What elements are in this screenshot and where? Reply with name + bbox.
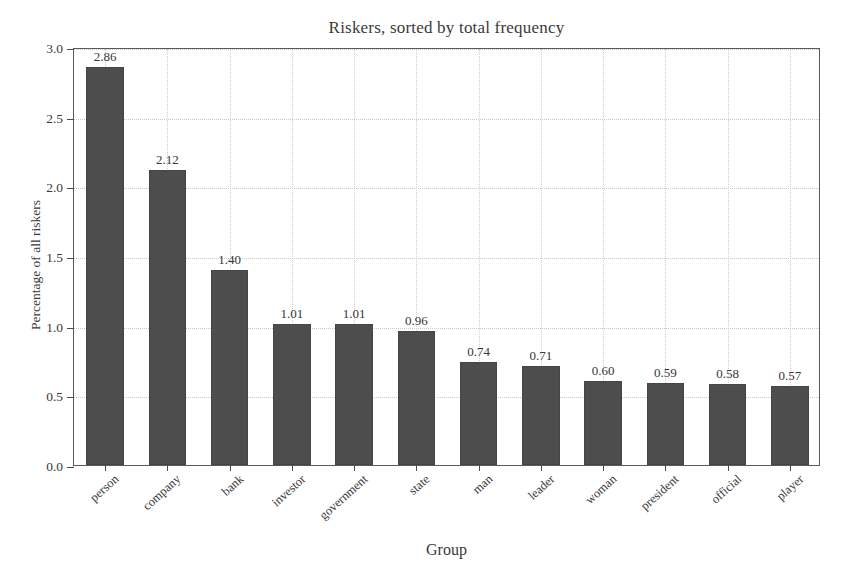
y-tick-mark	[67, 119, 74, 120]
y-tick-mark	[67, 397, 74, 398]
bar-value-label: 0.60	[592, 363, 615, 379]
plot-inner: 2.862.121.401.011.010.960.740.710.600.59…	[74, 49, 819, 465]
y-tick-mark	[67, 49, 74, 50]
bar[interactable]: 0.57	[771, 386, 808, 465]
bar-value-label: 0.57	[778, 368, 801, 384]
gridline-horizontal	[74, 119, 819, 120]
x-tick-label: leader	[525, 472, 558, 504]
y-tick-label: 2.0	[46, 180, 63, 196]
bar[interactable]: 0.74	[460, 362, 497, 465]
bar[interactable]: 2.86	[86, 67, 123, 465]
y-tick-label: 1.0	[46, 320, 63, 336]
bar-value-label: 0.96	[405, 313, 428, 329]
x-tick-label: company	[140, 472, 184, 514]
x-tick-label: bank	[219, 472, 247, 499]
y-tick-label: 2.5	[46, 111, 63, 127]
bar-value-label: 1.01	[280, 306, 303, 322]
y-tick-label: 0.0	[46, 459, 63, 475]
x-tick-mark	[790, 465, 791, 471]
bar-value-label: 0.58	[716, 366, 739, 382]
x-tick-label: president	[638, 472, 682, 514]
x-tick-mark	[603, 465, 604, 471]
y-tick-label: 0.5	[46, 389, 63, 405]
bar-value-label: 1.40	[218, 252, 241, 268]
x-tick-mark	[105, 465, 106, 471]
x-tick-mark	[416, 465, 417, 471]
y-tick-mark	[67, 258, 74, 259]
plot-area: 2.862.121.401.011.010.960.740.710.600.59…	[73, 48, 820, 466]
x-tick-mark	[354, 465, 355, 471]
x-tick-label: state	[406, 472, 433, 498]
x-axis-title: Group	[73, 541, 820, 559]
y-tick-label: 1.5	[46, 250, 63, 266]
x-tick-label: woman	[583, 472, 620, 508]
x-tick-mark	[292, 465, 293, 471]
bar-value-label: 0.74	[467, 344, 490, 360]
bar[interactable]: 1.01	[273, 324, 310, 465]
y-tick-label: 3.0	[46, 41, 63, 57]
bar-chart-figure: Riskers, sorted by total frequency Perce…	[0, 0, 868, 582]
x-tick-mark	[541, 465, 542, 471]
x-tick-label: man	[470, 472, 496, 498]
x-tick-mark	[728, 465, 729, 471]
bar-value-label: 0.59	[654, 365, 677, 381]
x-tick-label: official	[708, 472, 745, 507]
x-tick-label: player	[774, 472, 807, 504]
bar-value-label: 1.01	[343, 306, 366, 322]
bar[interactable]: 2.12	[149, 170, 186, 465]
bar-value-label: 2.12	[156, 152, 179, 168]
bar[interactable]: 0.60	[584, 381, 621, 465]
bar-value-label: 0.71	[529, 348, 552, 364]
bar[interactable]: 1.40	[211, 270, 248, 465]
bar[interactable]: 0.58	[709, 384, 746, 465]
x-tick-mark	[167, 465, 168, 471]
y-tick-mark	[67, 188, 74, 189]
x-tick-label: government	[317, 472, 371, 523]
y-tick-mark	[67, 467, 74, 468]
gridline-horizontal	[74, 49, 819, 50]
bar[interactable]: 0.59	[647, 383, 684, 465]
x-tick-label: person	[87, 472, 122, 505]
x-tick-label: investor	[269, 472, 309, 510]
x-tick-mark	[665, 465, 666, 471]
y-axis-title: Percentage of all riskers	[28, 140, 44, 390]
y-tick-mark	[67, 328, 74, 329]
bar[interactable]: 0.71	[522, 366, 559, 465]
x-tick-mark	[479, 465, 480, 471]
bar[interactable]: 0.96	[398, 331, 435, 465]
bar[interactable]: 1.01	[335, 324, 372, 465]
chart-title: Riskers, sorted by total frequency	[73, 18, 820, 38]
bar-value-label: 2.86	[94, 49, 117, 65]
x-tick-mark	[230, 465, 231, 471]
